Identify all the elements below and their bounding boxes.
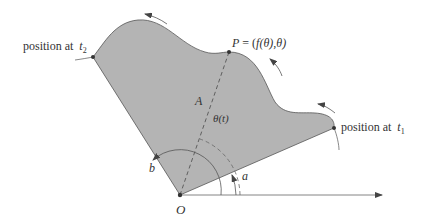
polar-area-diagram: O A θ(t) a b P = (f(θ),θ) position at t2… (0, 0, 428, 222)
t1-curve (334, 128, 339, 150)
b-label: b (149, 161, 155, 175)
point-p-label: P = (f(θ),θ) (231, 36, 286, 50)
motion-arrow-mid (270, 59, 282, 76)
point-t2 (91, 55, 95, 59)
motion-arrow-right (318, 104, 335, 113)
region-label: A (194, 94, 203, 108)
origin-point (178, 193, 182, 197)
region-a (93, 20, 334, 195)
a-label: a (242, 169, 248, 183)
point-p (227, 50, 231, 54)
t2-label: position at t2 (23, 39, 87, 55)
theta-label: θ(t) (213, 112, 229, 125)
a-arc (232, 175, 236, 195)
t1-label: position at t1 (341, 120, 405, 136)
point-t1 (332, 126, 336, 130)
t2-curve (75, 57, 93, 60)
origin-label: O (176, 202, 186, 217)
